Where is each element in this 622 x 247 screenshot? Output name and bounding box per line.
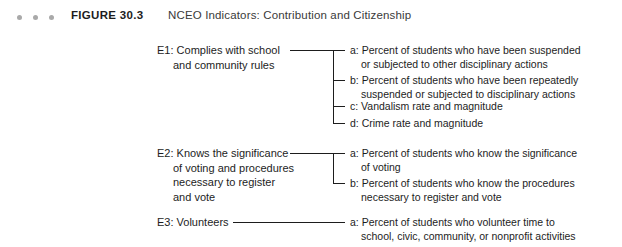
connector-spine-e2 [333,153,334,183]
indicator-label-e3-line1: E3: Volunteers [157,216,229,228]
sub-item-e2-a: a: Percent of students who know the sign… [350,146,577,174]
indicator-label-e2-line1: E2: Knows the significance [157,147,288,159]
sub-item-e1-a-line2: or subjected to other disciplinary actio… [350,57,581,71]
connector-trunk-e1 [290,50,334,51]
indicator-label-e2-line3: necessary to register [157,175,294,190]
indicator-label-e2-line2: of voting and procedures [157,161,294,176]
connector-spine-e1 [333,50,334,123]
connector-trunk-e2 [290,153,334,154]
sub-item-e1-c: c: Vandalism rate and magnitude [350,99,503,113]
indicator-label-e2: E2: Knows the significance of voting and… [157,146,294,204]
sub-item-e2-b: b: Percent of students who know the proc… [350,176,575,204]
sub-item-e1-d: d: Crime rate and magnitude [350,116,483,130]
connector-branch-e1-b [333,80,345,81]
sub-item-e2-a-line2: of voting [350,160,577,174]
sub-item-e1-b-line1: b: Percent of students who have been rep… [350,74,578,86]
connector-branch-e1-d [333,123,345,124]
indicator-label-e3: E3: Volunteers [157,215,229,230]
indicator-label-e1-line1: E1: Complies with school [157,44,280,56]
sub-item-e2-b-line1: b: Percent of students who know the proc… [350,177,575,189]
sub-item-e1-c-line1: c: Vandalism rate and magnitude [350,100,503,112]
connector-branch-e1-c [333,106,345,107]
connector-branch-e2-a [333,153,345,154]
sub-item-e3-a: a: Percent of students who volunteer tim… [350,215,576,243]
sub-item-e3-a-line2: school, civic, community, or nonprofit a… [350,229,576,243]
sub-item-e1-b: b: Percent of students who have been rep… [350,73,578,101]
sub-item-e1-a: a: Percent of students who have been sus… [350,43,581,71]
connector-branch-e2-b [333,183,345,184]
sub-item-e2-a-line1: a: Percent of students who know the sign… [350,147,577,159]
connector-branch-e1-a [333,50,345,51]
figure-diagram: E1: Complies with school and community r… [0,0,622,247]
indicator-label-e1-line2: and community rules [157,58,280,73]
indicator-label-e1: E1: Complies with school and community r… [157,43,280,72]
sub-item-e2-b-line2: necessary to register and vote [350,190,575,204]
sub-item-e3-a-line1: a: Percent of students who volunteer tim… [350,216,555,228]
connector-trunk-e3 [233,222,345,223]
sub-item-e1-a-line1: a: Percent of students who have been sus… [350,44,581,56]
sub-item-e1-d-line1: d: Crime rate and magnitude [350,117,483,129]
indicator-label-e2-line4: and vote [157,190,294,205]
